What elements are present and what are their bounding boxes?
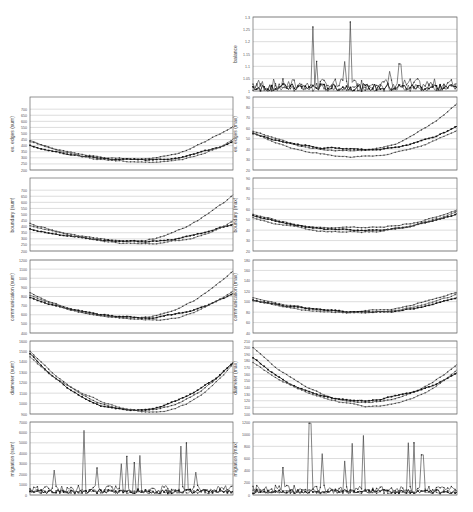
y-tick-label: 1200 [242,421,250,425]
series-line-1 [253,293,457,313]
y-tick-label: 120 [244,290,250,294]
y-tick-label: 1500 [19,350,27,354]
y-tick-label: 5000 [19,441,27,445]
y-tick-label: 400 [244,469,250,473]
y-tick-label: 1.2 [245,40,250,44]
y-tick-label: 3000 [19,462,27,466]
y-tick-label: 1000 [19,402,27,406]
plot-area: 2030405060708090 [253,178,457,251]
y-axis-label: diameter (max) [232,343,238,413]
y-tick-label: 1.15 [243,53,250,57]
y-axis-label: ex. edges (sum) [9,99,15,169]
y-tick-label: 130 [244,393,250,397]
y-tick-label: 300 [21,156,27,160]
y-tick-label: 1200 [19,381,27,385]
y-tick-label: 70 [246,197,250,201]
y-tick-label: 30 [246,239,250,243]
y-tick-label: 0 [248,494,250,498]
y-tick-label: 30 [246,158,250,162]
y-tick-label: 450 [21,138,27,142]
y-axis-label: migration (max) [232,424,238,494]
y-tick-label: 100 [244,413,250,417]
y-tick-label: 40 [246,229,250,233]
y-tick-label: 60 [246,208,250,212]
series-line-1 [253,104,457,151]
chart-panel-communication-max: 406080100120140160180communication (max) [253,260,457,333]
y-tick-label: 140 [244,279,250,283]
y-tick-label: 190 [244,353,250,357]
y-tick-label: 80 [246,106,250,110]
y-tick-label: 500 [21,322,27,326]
plot-area: 01000200030004000500060007000 [30,422,233,495]
plot-frame [253,260,457,333]
y-tick-label: 6000 [19,431,27,435]
plot-area: 100110120130140150160170180190200210 [253,341,457,414]
y-tick-label: 600 [21,201,27,205]
y-tick-label: 140 [244,386,250,390]
y-tick-label: 800 [21,295,27,299]
y-tick-label: 650 [21,114,27,118]
y-tick-label: 150 [244,379,250,383]
plot-area: 2030405060708090 [253,97,457,170]
y-tick-label: 250 [21,162,27,166]
y-tick-label: 400 [21,225,27,229]
y-tick-label: 350 [21,150,27,154]
chart-panel-balance: 11.051.11.151.21.251.3balance [253,17,457,91]
y-axis-label: migration (sum) [9,424,15,494]
y-tick-label: 1100 [19,268,27,272]
y-tick-label: 20 [246,169,250,173]
y-tick-label: 600 [244,457,250,461]
y-axis-label: communication (max) [232,262,238,332]
chart-panel-diameter-max: 100110120130140150160170180190200210diam… [253,341,457,414]
y-tick-label: 90 [246,96,250,100]
y-tick-label: 170 [244,366,250,370]
series-line-3 [253,131,457,158]
series-line-3 [30,357,233,412]
y-tick-label: 600 [21,120,27,124]
y-tick-label: 60 [246,321,250,325]
y-axis-label: boundary (sum) [9,180,15,250]
y-tick-label: 110 [244,406,250,410]
y-tick-label: 300 [21,237,27,241]
y-tick-label: 2000 [19,473,27,477]
y-tick-label: 550 [21,126,27,130]
chart-panel-migration-sum: 01000200030004000500060007000migration (… [30,422,233,495]
y-tick-label: 450 [21,219,27,223]
y-tick-label: 210 [244,340,250,344]
chart-panel-migration-max: 020040060080010001200migration (max) [253,422,457,495]
y-axis-label: boundary (max) [232,180,238,250]
y-tick-label: 500 [21,213,27,217]
chart-panel-ex-edges-max: 2030405060708090ex. edges (max) [253,97,457,170]
plot-frame [30,422,233,495]
y-tick-label: 120 [244,399,250,403]
plot-frame [253,97,457,170]
plot-area: 200250300350400450500550600650700 [30,178,233,251]
series-line-1 [30,195,233,242]
y-tick-label: 50 [246,218,250,222]
y-tick-label: 700 [21,304,27,308]
chart-panel-diameter-sum: 9001000110012001300140015001600diameter … [30,341,233,414]
series-line-1 [30,430,233,493]
y-tick-label: 1300 [19,371,27,375]
y-tick-label: 500 [21,132,27,136]
y-tick-label: 800 [244,445,250,449]
y-tick-label: 400 [21,332,27,336]
plot-area: 406080100120140160180 [253,260,457,333]
y-tick-label: 60 [246,127,250,131]
plot-area: 200250300350400450500550600650700 [30,97,233,170]
y-tick-label: 7000 [19,421,27,425]
y-tick-label: 700 [21,189,27,193]
y-tick-label: 650 [21,195,27,199]
y-tick-label: 350 [21,231,27,235]
plot-frame [253,178,457,251]
y-tick-label: 1200 [19,259,27,263]
y-tick-label: 160 [244,269,250,273]
y-tick-label: 900 [21,286,27,290]
y-tick-label: 90 [246,177,250,181]
y-tick-label: 200 [21,250,27,254]
plot-area: 11.051.11.151.21.251.3 [253,17,457,91]
y-tick-label: 200 [21,169,27,173]
series-line-1 [30,126,233,159]
y-tick-label: 40 [246,148,250,152]
chart-panel-boundary-max: 2030405060708090boundary (max) [253,178,457,251]
